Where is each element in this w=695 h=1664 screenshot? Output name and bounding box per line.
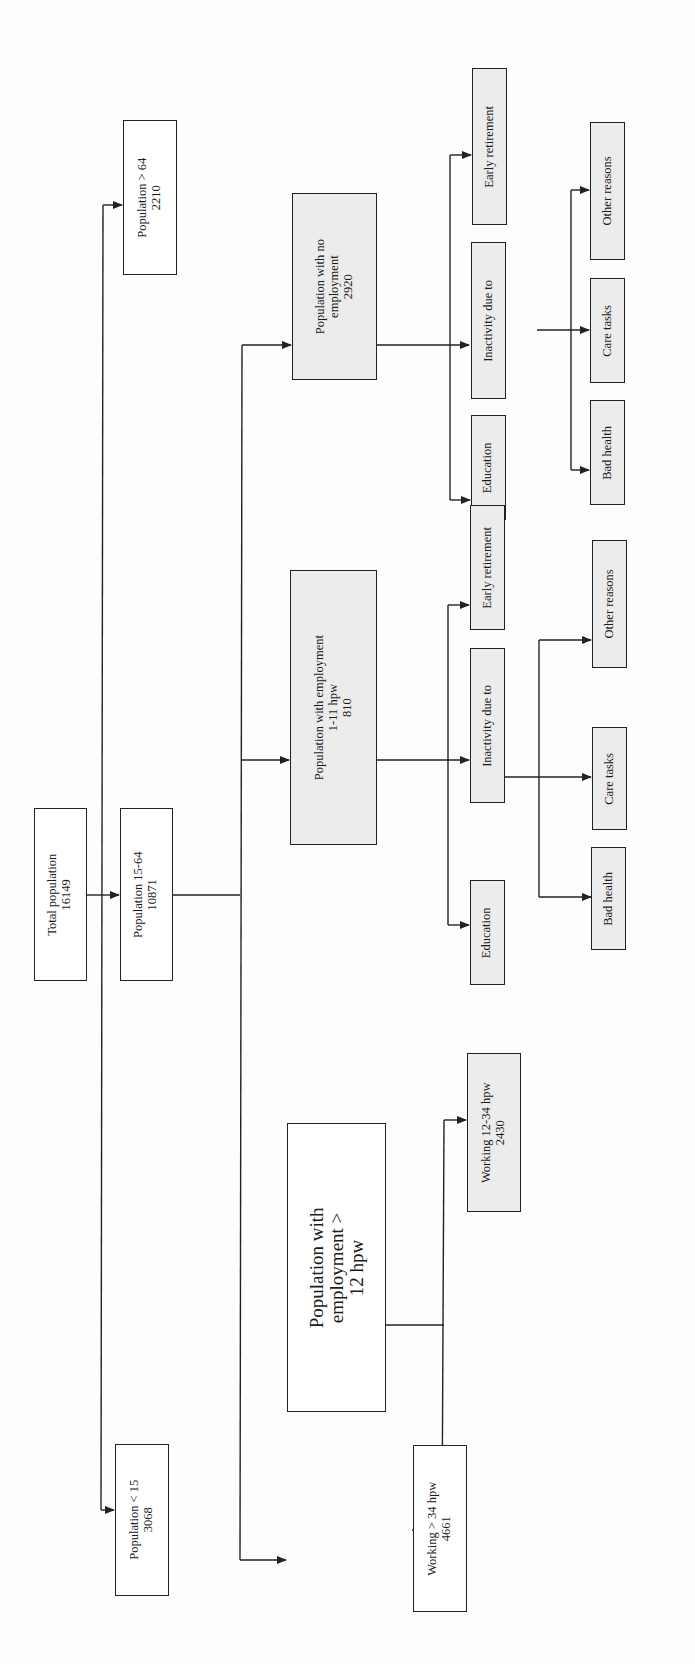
node-ne-inactivity: Inactivity due to [471, 242, 506, 399]
node-ne-other-reasons: Other reasons [590, 122, 625, 260]
node-total-population: Total population16149 [34, 808, 87, 981]
node-ne-care-tasks: Care tasks [590, 278, 625, 383]
node-population-employment-over-12-hpw: Population withemployment >12 hpw [287, 1123, 386, 1412]
node-e111-early-retirement: Early retirement [470, 505, 505, 630]
node-e111-education: Education [470, 880, 505, 985]
node-e111-bad-health: Bad health [591, 847, 626, 950]
node-working-12-34-hpw: Working 12-34 hpw2430 [467, 1053, 521, 1212]
node-e111-inactivity: Inactivity due to [470, 648, 505, 803]
node-population-over-64: Population > 642210 [123, 120, 177, 275]
node-population-15-64: Population 15-6410871 [120, 808, 173, 981]
node-working-over-34-hpw: Working > 34 hpw4661 [413, 1445, 467, 1612]
node-e111-other-reasons: Other reasons [592, 540, 627, 668]
node-population-no-employment: Population with noemployment2920 [292, 193, 377, 380]
node-population-under-15: Population < 153068 [115, 1444, 169, 1596]
node-population-employment-1-11-hpw: Population with employment1-11 hpw810 [290, 570, 377, 845]
node-e111-care-tasks: Care tasks [592, 727, 627, 830]
node-ne-bad-health: Bad health [590, 400, 625, 505]
node-ne-early-retirement: Early retirement [472, 68, 507, 225]
population-flow-diagram: Population > 642210 Total population1614… [0, 0, 695, 1664]
